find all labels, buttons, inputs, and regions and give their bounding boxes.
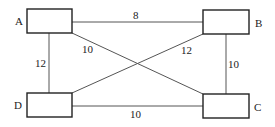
node-d-label: D: [14, 99, 22, 111]
weight-d-c: 10: [130, 108, 142, 120]
graph-diagram: A B C D 8 12 10 12 10 10: [0, 0, 275, 127]
node-b-label: B: [255, 17, 262, 29]
weight-a-b: 8: [133, 9, 139, 21]
node-b-box: [203, 10, 249, 34]
weight-a-d: 12: [35, 57, 46, 69]
node-a-box: [27, 9, 72, 33]
node-a-label: A: [15, 15, 23, 27]
node-d-box: [27, 93, 72, 117]
weight-b-c: 10: [228, 58, 240, 70]
node-c-box: [203, 94, 249, 118]
node-c-label: C: [254, 101, 261, 113]
weight-a-c: 10: [82, 43, 94, 55]
weight-b-d: 12: [181, 44, 192, 56]
